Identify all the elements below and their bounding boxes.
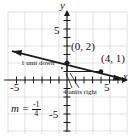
slope-fraction: -1 4 bbox=[32, 101, 41, 118]
slope-equation-prefix: m = bbox=[11, 102, 29, 114]
graph-figure: y x 5 -5 -5 5 (0, 2) (4, 1) 1 unit down … bbox=[0, 0, 135, 140]
rise-leader-dot bbox=[61, 67, 63, 69]
run-annotation-label: 4 units right bbox=[63, 89, 97, 96]
x-tick-label-5: 5 bbox=[104, 82, 110, 93]
y-tick-label-neg5: -5 bbox=[49, 109, 58, 120]
slope-equation: m = -1 4 bbox=[11, 101, 41, 118]
point-marker-0-2 bbox=[65, 61, 70, 66]
y-tick-label-5: 5 bbox=[54, 25, 60, 36]
coordinate-plane-svg bbox=[0, 0, 135, 140]
x-axis-label: x bbox=[123, 72, 127, 82]
slope-denominator: 4 bbox=[32, 110, 41, 118]
rise-annotation-label: 1 unit down bbox=[21, 60, 54, 67]
point-marker-4-1 bbox=[99, 69, 104, 74]
x-tick-label-neg5: -5 bbox=[10, 82, 19, 93]
point-label-0-2: (0, 2) bbox=[71, 41, 95, 52]
y-axis-label: y bbox=[60, 0, 65, 11]
point-label-4-1: (4, 1) bbox=[101, 53, 125, 64]
